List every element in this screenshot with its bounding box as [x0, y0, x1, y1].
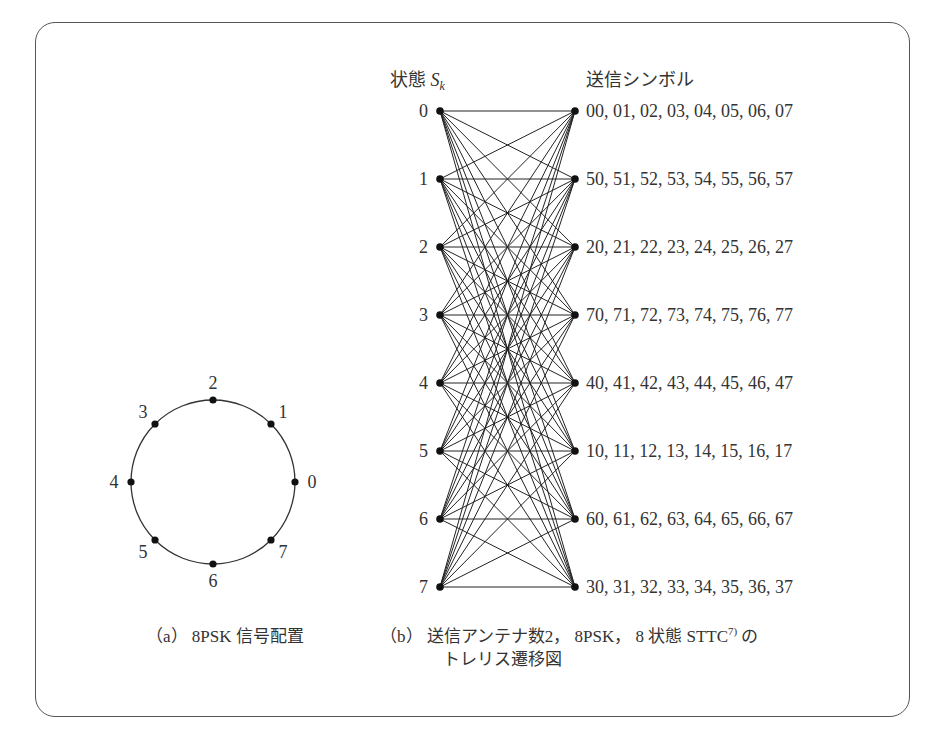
caption-a: （a） 8PSK 信号配置	[146, 622, 304, 647]
trellis-nodes: 000, 01, 02, 03, 04, 05, 06, 07150, 51, …	[419, 101, 793, 597]
constellation-point	[151, 420, 158, 427]
symbol-label: 10, 11, 12, 13, 14, 15, 16, 17	[586, 441, 792, 461]
constellation-label: 2	[209, 373, 218, 393]
state-label: 1	[419, 169, 428, 189]
state-node-left	[436, 107, 444, 115]
state-node-right	[571, 515, 579, 523]
constellation-point	[209, 396, 216, 403]
symbol-label: 40, 41, 42, 43, 44, 45, 46, 47	[586, 373, 793, 393]
state-label: 2	[419, 237, 428, 257]
state-node-right	[571, 379, 579, 387]
symbol-header: 送信シンボル	[586, 70, 694, 90]
state-label: 0	[419, 101, 428, 121]
state-node-left	[436, 447, 444, 455]
symbol-label: 70, 71, 72, 73, 74, 75, 76, 77	[586, 305, 793, 325]
state-label: 6	[419, 509, 428, 529]
caption-b-ref: 7)	[728, 625, 737, 637]
state-node-left	[436, 583, 444, 591]
state-node-right	[571, 107, 579, 115]
constellation-point	[267, 536, 274, 543]
state-node-left	[436, 515, 444, 523]
symbol-label: 50, 51, 52, 53, 54, 55, 56, 57	[586, 169, 793, 189]
state-label: 7	[419, 577, 428, 597]
state-node-right	[571, 583, 579, 591]
caption-a-text: 8PSK 信号配置	[192, 627, 304, 646]
state-node-right	[571, 311, 579, 319]
trellis-diagram: 000, 01, 02, 03, 04, 05, 06, 07150, 51, …	[419, 101, 793, 597]
constellation-label: 3	[138, 402, 147, 422]
caption-b: （b） 送信アンテナ数2， 8PSK， 8 状態 STTC7) の	[380, 622, 758, 647]
state-node-left	[436, 175, 444, 183]
constellation-label: 4	[110, 472, 119, 492]
symbol-label: 60, 61, 62, 63, 64, 65, 66, 67	[586, 509, 793, 529]
symbol-label: 20, 21, 22, 23, 24, 25, 26, 27	[586, 237, 793, 257]
symbol-label: 00, 01, 02, 03, 04, 05, 06, 07	[586, 101, 793, 121]
8psk-constellation: 01234567	[110, 373, 317, 591]
state-label: 4	[419, 373, 428, 393]
state-label: 3	[419, 305, 428, 325]
trellis-edges	[440, 111, 575, 587]
constellation-point	[291, 478, 298, 485]
state-node-right	[571, 243, 579, 251]
caption-a-prefix: （a）	[146, 627, 188, 646]
caption-b-line2: トレリス遷移図	[443, 645, 562, 670]
state-node-left	[436, 243, 444, 251]
state-header: 状態 Sk	[390, 70, 446, 93]
state-node-right	[571, 175, 579, 183]
caption-b-text: 送信アンテナ数2， 8PSK， 8 状態 STTC	[427, 627, 728, 646]
caption-b-suffix: の	[737, 627, 758, 646]
state-node-right	[571, 447, 579, 455]
constellation-point	[267, 420, 274, 427]
state-node-left	[436, 311, 444, 319]
constellation-point	[209, 560, 216, 567]
constellation-label: 5	[138, 542, 147, 562]
state-node-left	[436, 379, 444, 387]
symbol-label: 30, 31, 32, 33, 34, 35, 36, 37	[586, 577, 793, 597]
constellation-label: 6	[209, 571, 218, 591]
constellation-label: 7	[279, 542, 288, 562]
constellation-point	[151, 536, 158, 543]
constellation-label: 0	[308, 472, 317, 492]
state-label: 5	[419, 441, 428, 461]
constellation-point	[127, 478, 134, 485]
caption-b-prefix: （b）	[380, 627, 423, 646]
constellation-label: 1	[279, 402, 288, 422]
